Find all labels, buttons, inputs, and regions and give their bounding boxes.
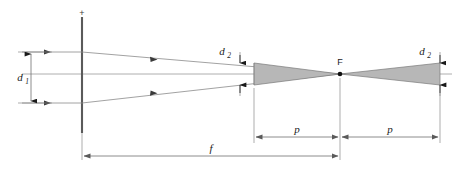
d2-left-subscript: 2 xyxy=(227,51,231,60)
converging-cone xyxy=(254,63,340,85)
dimension-extension-lines xyxy=(82,78,440,160)
d2-right-subscript: 2 xyxy=(427,51,431,60)
optics-diagram-canvas: + F xyxy=(0,0,463,176)
p-left-label: p xyxy=(293,123,300,135)
dimension-d2-left: d 2 xyxy=(219,45,254,96)
d2-right-label: d xyxy=(419,45,425,57)
converging-ray-arrow-top xyxy=(150,57,158,62)
optics-diagram: + F xyxy=(0,0,463,176)
dimension-d1: d 1 xyxy=(17,52,52,103)
lens-plus-marker: + xyxy=(79,8,84,18)
dimension-f: f xyxy=(84,142,338,156)
focal-point-label: F xyxy=(337,57,343,67)
diverging-cone xyxy=(340,63,440,85)
d2-left-label: d xyxy=(219,45,225,57)
d1-label: d xyxy=(17,71,23,83)
focal-point-dot xyxy=(338,72,343,77)
converging-cone-shape xyxy=(254,63,340,85)
diverging-cone-shape xyxy=(340,63,440,85)
d1-subscript: 1 xyxy=(25,77,29,86)
f-label: f xyxy=(209,142,214,154)
lens-plus-label: + xyxy=(79,8,84,18)
dimension-p-right: p xyxy=(342,123,438,137)
dimension-p-left: p xyxy=(256,123,338,137)
p-right-label: p xyxy=(386,123,393,135)
